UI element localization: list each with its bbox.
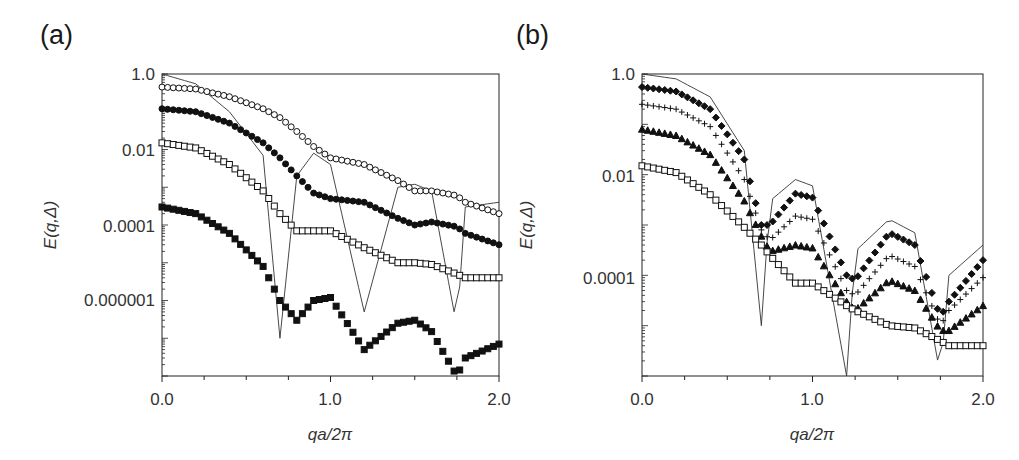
data-point — [417, 188, 423, 194]
data-point — [266, 109, 272, 115]
data-point — [832, 280, 839, 287]
data-point — [485, 207, 491, 213]
data-point — [496, 242, 502, 248]
data-point — [837, 259, 844, 266]
panel-a-ylabel: E(q,Δ) — [41, 201, 60, 249]
data-point — [912, 263, 918, 269]
data-point — [741, 156, 748, 163]
data-point — [451, 192, 457, 198]
data-point — [445, 268, 451, 274]
data-point — [277, 211, 283, 217]
data-point — [457, 272, 463, 278]
data-point — [305, 228, 311, 234]
data-point — [821, 240, 827, 246]
data-point — [855, 309, 861, 315]
data-point — [735, 148, 742, 155]
data-point — [929, 303, 935, 309]
data-point — [181, 208, 187, 214]
data-point — [210, 90, 216, 96]
data-point — [423, 188, 429, 194]
data-point — [288, 311, 294, 317]
data-point — [215, 224, 221, 230]
panel-b-xtick-0: 0.0 — [630, 390, 654, 409]
data-point — [457, 367, 463, 373]
data-point — [266, 275, 272, 281]
data-point — [809, 244, 816, 251]
data-point — [974, 280, 980, 286]
data-point — [344, 197, 350, 203]
data-point — [232, 123, 238, 129]
data-point — [401, 260, 407, 266]
data-point — [468, 353, 474, 359]
data-point — [406, 260, 412, 266]
data-point — [271, 286, 277, 292]
data-point — [254, 104, 260, 110]
data-point — [923, 290, 929, 296]
data-point — [429, 329, 435, 335]
data-point — [440, 266, 446, 272]
data-point — [176, 85, 182, 91]
data-point — [412, 317, 418, 323]
data-point — [462, 355, 468, 361]
data-point — [198, 111, 204, 117]
data-point — [935, 336, 941, 342]
data-point — [849, 306, 855, 312]
data-point — [673, 106, 679, 112]
data-point — [215, 116, 221, 122]
panel-a-xtick-1: 1.0 — [318, 390, 342, 409]
data-point — [322, 228, 328, 234]
panel-a-xtick-0: 0.0 — [150, 390, 174, 409]
data-point — [496, 275, 502, 281]
data-point — [423, 261, 429, 267]
data-point — [294, 128, 300, 134]
data-point — [356, 242, 362, 248]
data-point — [877, 241, 884, 248]
data-point — [753, 236, 759, 242]
data-point — [798, 191, 805, 198]
data-point — [889, 323, 895, 329]
data-point — [815, 207, 822, 214]
data-point — [485, 275, 491, 281]
data-point — [474, 203, 480, 209]
data-point — [339, 312, 345, 318]
data-point — [661, 130, 668, 137]
data-point — [889, 278, 896, 285]
data-point — [935, 316, 941, 322]
data-point — [730, 159, 736, 165]
data-point — [260, 263, 266, 269]
data-point — [838, 299, 844, 305]
data-point — [226, 120, 232, 126]
data-point — [900, 259, 906, 265]
data-point — [775, 211, 782, 218]
data-point — [656, 129, 663, 136]
data-point — [210, 153, 216, 159]
data-point — [271, 203, 277, 209]
data-point — [440, 221, 446, 227]
data-point — [159, 106, 165, 112]
data-point — [662, 167, 668, 173]
data-point — [238, 98, 244, 104]
data-point — [165, 205, 171, 211]
data-point — [159, 84, 165, 90]
data-point — [673, 132, 680, 139]
data-point — [724, 150, 730, 156]
data-point — [923, 273, 930, 280]
data-point — [963, 291, 969, 297]
data-point — [356, 199, 362, 205]
data-point — [804, 215, 810, 221]
data-point — [232, 236, 238, 242]
data-point — [266, 195, 272, 201]
data-point — [781, 204, 788, 211]
data-point — [249, 252, 255, 258]
figure-canvas: 0.0 1.0 2.0 1.0 0.01 0.0001 0.000001 qa/… — [0, 0, 1019, 460]
data-point — [957, 297, 963, 303]
data-point — [434, 264, 440, 270]
data-point — [952, 343, 958, 349]
data-point — [718, 167, 725, 174]
data-point — [656, 166, 662, 172]
data-point — [798, 214, 804, 220]
data-point — [803, 193, 810, 200]
data-point — [249, 102, 255, 108]
data-point — [445, 191, 451, 197]
data-point — [934, 323, 941, 330]
